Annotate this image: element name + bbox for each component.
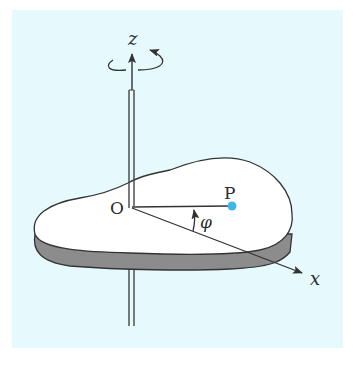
rotation-arrow-icon bbox=[108, 50, 162, 70]
origin-label: O bbox=[110, 200, 124, 217]
shaft-lower bbox=[129, 266, 134, 326]
rotation-diagram bbox=[0, 0, 353, 365]
point-P-label: P bbox=[224, 185, 235, 202]
angle-phi-label: φ bbox=[200, 214, 212, 231]
z-axis-label: z bbox=[128, 30, 137, 48]
x-axis-label: x bbox=[310, 270, 320, 288]
